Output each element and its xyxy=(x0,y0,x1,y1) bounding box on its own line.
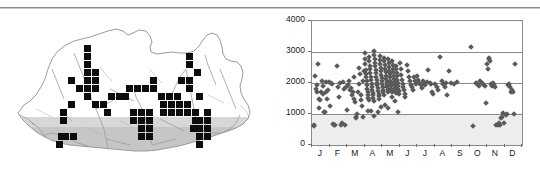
scatter-point xyxy=(336,94,342,100)
map-presence-cell xyxy=(146,117,153,124)
x-axis-tick-label: S xyxy=(452,149,468,158)
x-axis-tick-label: O xyxy=(469,149,485,158)
map-presence-cell xyxy=(160,109,167,116)
map-presence-cell xyxy=(108,93,115,100)
gridline xyxy=(312,114,522,115)
map-presence-cell xyxy=(138,125,145,132)
map-presence-cell xyxy=(166,93,173,100)
scatter-point xyxy=(410,87,416,93)
map-presence-cell xyxy=(178,77,185,84)
map-presence-cell xyxy=(146,109,153,116)
map-presence-cell xyxy=(138,133,145,140)
map-presence-cell xyxy=(62,133,69,140)
shaded-low-elevation-band xyxy=(312,114,522,145)
map-presence-cell xyxy=(160,101,167,108)
map-presence-cell xyxy=(122,93,129,100)
scatter-point xyxy=(328,103,334,109)
map-presence-cell xyxy=(68,101,75,108)
x-axis-tick-mark xyxy=(311,144,312,147)
x-axis-tick-mark xyxy=(521,144,522,147)
map-presence-cell xyxy=(204,109,211,116)
x-axis-tick-mark xyxy=(469,144,470,147)
map-presence-cell xyxy=(204,125,211,132)
x-axis-tick-mark xyxy=(381,144,382,147)
scatter-point xyxy=(512,61,518,67)
scatter-point xyxy=(312,73,318,79)
scatter-point xyxy=(329,81,335,87)
y-axis-tick-label: 4000 xyxy=(286,15,305,24)
scatter-point xyxy=(437,54,443,60)
map-presence-cell xyxy=(168,109,175,116)
scatter-point xyxy=(334,63,340,69)
scatter-point xyxy=(425,67,431,73)
map-presence-cell xyxy=(190,125,197,132)
scatter-point xyxy=(468,44,474,50)
map-presence-cell xyxy=(150,77,157,84)
map-presence-cell xyxy=(56,141,63,148)
map-presence-cell xyxy=(150,85,157,92)
elevation-scatter-panel: 01000200030004000 JFMAMJJASOND xyxy=(278,9,540,174)
map-presence-cell xyxy=(84,85,91,92)
map-presence-cell xyxy=(186,85,193,92)
y-axis-tick-mark xyxy=(308,51,311,52)
gridline xyxy=(312,52,522,53)
scatter-point xyxy=(362,50,368,56)
y-axis-tick-label: 1000 xyxy=(286,108,305,117)
x-axis-tick-mark xyxy=(346,144,347,147)
x-axis-tick-label: M xyxy=(382,149,398,158)
x-axis-tick-label: M xyxy=(347,149,363,158)
map-presence-cell xyxy=(84,61,91,68)
map-presence-cell xyxy=(192,109,199,116)
map-presence-cell xyxy=(130,109,137,116)
map-presence-cell xyxy=(204,133,211,140)
map-presence-cell xyxy=(158,93,165,100)
map-presence-cell xyxy=(196,133,203,140)
x-axis-tick-mark xyxy=(504,144,505,147)
x-axis-tick-label: J xyxy=(399,149,415,158)
map-presence-cell xyxy=(104,109,111,116)
scatter-point xyxy=(446,68,452,74)
x-axis-tick-label: D xyxy=(504,149,520,158)
y-axis-tick-mark xyxy=(308,82,311,83)
x-axis-tick-mark xyxy=(399,144,400,147)
scatter-point xyxy=(385,106,391,112)
figure-container: 01000200030004000 JFMAMJJASOND xyxy=(0,0,540,174)
map-presence-cell xyxy=(84,77,91,84)
scatter-point xyxy=(405,68,411,74)
map-presence-cell xyxy=(204,117,211,124)
map-presence-cell xyxy=(130,117,137,124)
map-presence-cell xyxy=(184,101,191,108)
map-presence-cell xyxy=(176,109,183,116)
scatter-point xyxy=(431,91,437,97)
scatter-point xyxy=(392,98,398,104)
map-presence-cell xyxy=(100,101,107,108)
x-axis-tick-mark xyxy=(434,144,435,147)
map-presence-cell xyxy=(84,45,91,52)
plot-frame xyxy=(311,20,523,146)
scatter-point xyxy=(404,62,410,68)
map-presence-cell xyxy=(138,117,145,124)
scatter-point xyxy=(482,83,488,89)
scatter-point xyxy=(345,107,351,113)
map-presence-cell xyxy=(186,53,193,60)
scatter-point xyxy=(483,101,489,107)
map-presence-cell xyxy=(186,77,193,84)
map-presence-cell xyxy=(134,85,141,92)
x-axis-tick-label: A xyxy=(434,149,450,158)
distribution-map-panel xyxy=(0,9,272,174)
x-axis-tick-mark xyxy=(329,144,330,147)
x-axis-tick-label: A xyxy=(364,149,380,158)
y-axis-tick-mark xyxy=(308,113,311,114)
map-presence-cell xyxy=(84,69,91,76)
map-presence-cell xyxy=(60,109,67,116)
map-presence-cell xyxy=(92,77,99,84)
y-axis-tick-label: 0 xyxy=(300,139,305,148)
x-axis-tick-mark xyxy=(486,144,487,147)
scatter-point xyxy=(324,96,330,102)
y-axis-tick-label: 3000 xyxy=(286,46,305,55)
map-presence-cell xyxy=(196,93,203,100)
scatter-point xyxy=(435,88,441,94)
map-presence-cell xyxy=(184,109,191,116)
scatter-point xyxy=(454,79,460,85)
scatter-point xyxy=(493,84,499,90)
